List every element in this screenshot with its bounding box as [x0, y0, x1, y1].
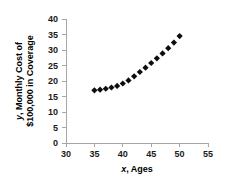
x-tick-label: 55	[203, 149, 213, 159]
x-axis-ticks	[66, 143, 208, 147]
y-tick-label: 40	[48, 14, 58, 24]
y-axis-ticks	[62, 19, 66, 143]
y-tick-label: 5	[53, 123, 58, 133]
x-axis-title-rest: , Ages	[126, 164, 153, 174]
svg-text:x, Ages: x, Ages	[120, 164, 153, 174]
y-axis-tick-labels: 0 5 10 15 20 25 30 35 40	[48, 14, 58, 148]
x-tick-label: 35	[89, 149, 99, 159]
y-tick-label: 15	[48, 92, 58, 102]
plot-area-background	[66, 19, 208, 143]
x-tick-label: 50	[175, 149, 185, 159]
y-axis-title: y, Monthly Cost of $100,000 in Coverage	[14, 35, 35, 127]
y-tick-label: 20	[48, 76, 58, 86]
svg-text:y, Monthly Cost of: y, Monthly Cost of	[14, 41, 24, 121]
chart-figure: 0 5 10 15 20 25 30 35 40 30 35 40 45 50 …	[0, 0, 230, 184]
y-tick-label: 30	[48, 45, 58, 55]
y-tick-label: 35	[48, 30, 58, 40]
x-tick-label: 40	[118, 149, 128, 159]
y-tick-label: 10	[48, 107, 58, 117]
x-tick-label: 30	[61, 149, 71, 159]
x-tick-label: 45	[146, 149, 156, 159]
y-tick-label: 0	[53, 138, 58, 148]
y-tick-label: 25	[48, 61, 58, 71]
x-axis-title: x, Ages	[120, 164, 153, 174]
scatter-plot: 0 5 10 15 20 25 30 35 40 30 35 40 45 50 …	[0, 0, 230, 184]
y-axis-title-line2: $100,000 in Coverage	[25, 35, 35, 127]
x-axis-tick-labels: 30 35 40 45 50 55	[61, 149, 213, 159]
y-axis-title-line1-rest: , Monthly Cost of	[14, 41, 24, 115]
